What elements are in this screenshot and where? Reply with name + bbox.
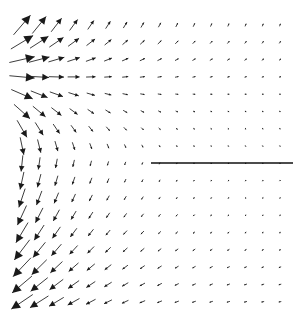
vector-arrow-head [245, 197, 246, 198]
vector-arrow-head [34, 233, 40, 240]
vector-arrow-head [20, 148, 26, 155]
vector-arrow-head [42, 55, 50, 62]
quiver-plot-canvas [0, 0, 301, 314]
vector-arrow-head [39, 17, 47, 25]
vector-arrow-head [33, 250, 40, 257]
vector-arrow-head [73, 147, 76, 150]
vector-arrow-head [280, 93, 281, 95]
vector-arrow-head [50, 284, 56, 290]
vector-arrow-head [262, 180, 263, 181]
vector-arrow-head [36, 182, 41, 187]
vector-arrow-head [18, 183, 24, 190]
vector-arrow-head [19, 166, 24, 172]
vector-arrow-head [21, 15, 30, 25]
vector-arrow-head [245, 93, 246, 95]
vector-arrow-head [37, 148, 42, 153]
vector-arrow-head [280, 180, 281, 181]
quiver-figure [0, 0, 301, 314]
vector-arrow-head [56, 129, 60, 133]
vector-arrow-head [262, 197, 263, 198]
vector-arrow-head [92, 75, 95, 78]
vector-arrow-head [227, 145, 228, 146]
vector-arrow-head [31, 284, 39, 292]
vector-arrow-head [57, 37, 63, 43]
vector-arrow-head [58, 56, 64, 61]
vector-arrow-head [262, 145, 263, 146]
vector-arrow-head [52, 233, 57, 238]
vector-arrow-head [262, 214, 263, 215]
vector-arrow-head [59, 74, 64, 79]
vector-arrow-head [245, 145, 246, 146]
vector-arrow-head [72, 181, 75, 184]
vector-arrow-head [262, 93, 263, 95]
vector-arrow-head [90, 21, 94, 25]
vector-arrow-head [16, 234, 24, 243]
vector-arrow-head [86, 284, 90, 288]
vector-arrow-head [49, 301, 56, 307]
vector-arrow-head [70, 233, 74, 237]
vector-arrow-head [39, 111, 45, 117]
vector-arrow-head [74, 38, 79, 43]
vector-arrow-head [177, 93, 178, 95]
vector-arrow-head [23, 36, 33, 44]
vector-arrow-head [40, 36, 48, 43]
arrow-layer [9, 15, 281, 309]
vector-arrow-head [245, 180, 246, 181]
vector-arrow-head [56, 18, 62, 24]
vector-arrow-head [73, 20, 78, 25]
vector-arrow-head [12, 284, 22, 293]
vector-arrow-head [74, 111, 78, 114]
vector-arrow-head [55, 165, 58, 168]
vector-arrow-head [30, 301, 38, 308]
vector-arrow-head [38, 129, 43, 135]
vector-arrow-head [280, 197, 281, 198]
vector-arrow-head [126, 76, 128, 78]
vector-arrow-head [11, 300, 21, 309]
vector-arrow-head [194, 93, 195, 95]
vector-arrow-head [42, 74, 49, 81]
vector-arrow-head [18, 200, 24, 207]
vector-arrow-head [26, 73, 35, 82]
vector-arrow-head [57, 111, 62, 115]
vector-arrow-head [68, 284, 73, 289]
vector-arrow-head [228, 180, 229, 181]
vector-arrow-head [76, 75, 80, 79]
vector-arrow-head [37, 165, 41, 169]
vector-arrow-head [109, 76, 112, 79]
vector-arrow-head [75, 57, 80, 61]
vector-arrow-head [21, 130, 27, 137]
vector-arrow-head [211, 93, 212, 95]
vector-arrow-head [14, 251, 23, 260]
vector-arrow-head [279, 145, 280, 146]
vector-arrow-head [228, 93, 229, 95]
